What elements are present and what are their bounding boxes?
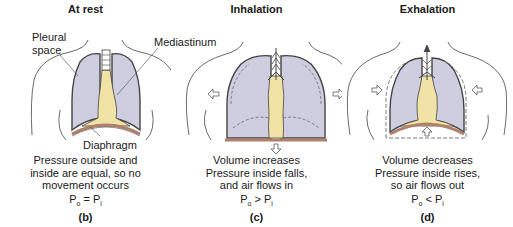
caption-line: inside are equal, so no (0, 167, 171, 180)
caption: Pressure outside and inside are equal, s… (0, 154, 171, 192)
panel-letter: (b) (0, 211, 171, 223)
caption: Volume increases Pressure inside falls, … (171, 154, 342, 192)
panel-at-rest: At rest Pleural space Mediastinum Diaphr… (0, 0, 171, 227)
pressure-equation: Po > Pi (171, 193, 342, 207)
pressure-equation: Po = Pi (0, 193, 171, 207)
caption-line: and air flows in (171, 179, 342, 192)
label-diaphragm: Diaphragm (83, 139, 137, 152)
caption-line: movement occurs (0, 179, 171, 192)
caption-line: Volume increases (171, 154, 342, 167)
panel-letter: (c) (171, 211, 342, 223)
panel-exhalation: Exhalation Volume decreases Pressure ins… (342, 0, 513, 227)
panel-inhalation: Inhalation Volume increases Pressure ins… (171, 0, 342, 227)
caption-line: Pressure inside falls, (171, 167, 342, 180)
pressure-equation: Po < Pi (342, 193, 513, 207)
caption-line: Volume decreases (342, 154, 513, 167)
panel-letter: (d) (342, 211, 513, 223)
caption-line: Pressure inside rises, (342, 167, 513, 180)
caption-line: so air flows out (342, 179, 513, 192)
label-pleural-space: Pleural space (32, 31, 66, 57)
caption-line: Pressure outside and (0, 154, 171, 167)
caption: Volume decreases Pressure inside rises, … (342, 154, 513, 192)
